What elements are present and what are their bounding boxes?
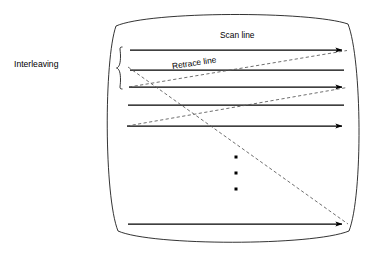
crt-raster-diagram — [0, 0, 385, 256]
interleaving-label: Interleaving — [14, 60, 58, 69]
scan-line-label: Scan line — [220, 31, 254, 39]
crt-screen-outline — [107, 14, 359, 242]
interleaving-brace — [117, 47, 123, 89]
retrace-line-long — [128, 67, 348, 224]
ellipsis-dot-1 — [235, 156, 238, 159]
retrace-line-2 — [127, 88, 347, 127]
diagram-canvas: Interleaving Scan line Retrace line — [0, 0, 385, 256]
ellipsis-dot-3 — [235, 188, 238, 191]
ellipsis-dot-2 — [235, 172, 238, 175]
retrace-line-1 — [129, 51, 347, 88]
